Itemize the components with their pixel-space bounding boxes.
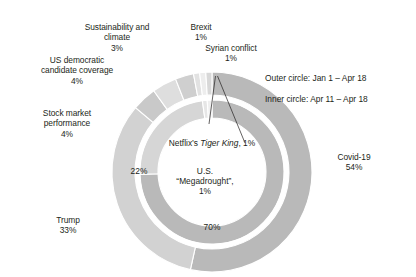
callout-covid-label: Covid-19 bbox=[337, 152, 370, 162]
callout-stock-market-pct: 4% bbox=[18, 129, 116, 139]
donut-segment bbox=[206, 72, 212, 95]
callout-stock-market-label: Stock market performance bbox=[43, 108, 91, 128]
netflix-title-italic: Tiger King bbox=[200, 138, 238, 148]
callout-brexit-label: Brexit bbox=[190, 22, 211, 32]
callout-sustainability-label: Sustainability and climate bbox=[85, 22, 150, 42]
inner-label-netflix-tiger-king: Netflix’s Tiger King, 1% bbox=[144, 138, 280, 148]
inner-label-us-megadrought: U.S. “Megadrought”, 1% bbox=[155, 166, 255, 197]
inner-ring-trump-pct: 22% bbox=[122, 166, 156, 176]
callout-us-democratic-candidate-coverage: US democratic candidate coverage 4% bbox=[18, 45, 136, 96]
note-outer-circle: Outer circle: Jan 1 – Apr 18 bbox=[265, 73, 366, 83]
callout-trump-pct: 33% bbox=[38, 225, 98, 235]
netflix-suffix: , 1% bbox=[238, 138, 255, 148]
period-notes: Outer circle: Jan 1 – Apr 18 Inner circl… bbox=[265, 62, 415, 104]
netflix-prefix: Netflix’s bbox=[169, 138, 201, 148]
megadrought-pct: 1% bbox=[199, 186, 211, 196]
callout-us-democratic-pct: 4% bbox=[18, 76, 136, 86]
callout-trump-label: Trump bbox=[56, 215, 80, 225]
callout-syrian-pct: 1% bbox=[185, 53, 277, 63]
callout-covid-pct: 54% bbox=[318, 162, 390, 172]
callout-covid-19: Covid-19 54% bbox=[318, 142, 390, 183]
megadrought-line2: “Megadrought”, bbox=[176, 176, 233, 186]
callout-syrian-label: Syrian conflict bbox=[205, 43, 256, 53]
callout-syrian-conflict: Syrian conflict 1% bbox=[185, 33, 277, 74]
callout-us-democratic-label: US democratic candidate coverage bbox=[41, 55, 113, 75]
inner-ring-covid-pct: 70% bbox=[195, 222, 229, 232]
note-inner-circle: Inner circle: Apr 11 – Apr 18 bbox=[265, 94, 368, 104]
callout-trump: Trump 33% bbox=[38, 205, 98, 246]
donut-chart-figure: Sustainability and climate 3% Brexit 1% … bbox=[0, 0, 416, 277]
callout-stock-market-performance: Stock market performance 4% bbox=[18, 98, 116, 149]
megadrought-line1: U.S. bbox=[197, 166, 213, 176]
